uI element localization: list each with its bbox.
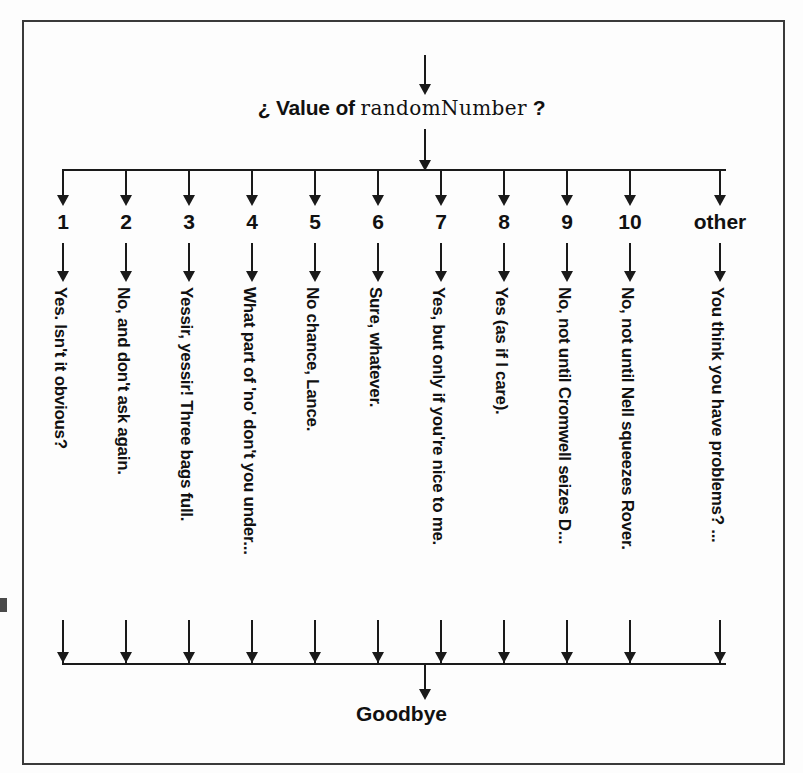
branch-answer-arrow-head (561, 271, 573, 282)
branch-merge-arrow-head (309, 652, 321, 663)
branch-drop-arrow-head (714, 195, 726, 206)
branch-answer-5: No chance, Lance. (302, 287, 322, 431)
entry-arrow-head (419, 84, 431, 95)
branch-key-5: 5 (309, 210, 321, 234)
branch-answer-9: No, not until Cromwell seizes D... (554, 287, 574, 544)
branch-merge-arrow-head (183, 652, 195, 663)
exit-arrow-head (419, 689, 431, 700)
branch-answer-10: No, not until Nell squeezes Rover. (617, 287, 637, 550)
branch-key-6: 6 (372, 210, 384, 234)
branch-answer-7: Yes, but only if you're nice to me. (428, 287, 448, 545)
branch-drop-arrow-head (624, 195, 636, 206)
distribution-bar (62, 169, 726, 171)
branch-merge-arrow-head (372, 652, 384, 663)
branch-merge-arrow-head (57, 652, 69, 663)
branch-drop-arrow-head (183, 195, 195, 206)
flowchart-page: ¿ Value of randomNumber ? Goodbye 1Yes. … (0, 0, 803, 773)
branch-answer-arrow-head (714, 271, 726, 282)
branch-drop-arrow-head (498, 195, 510, 206)
branch-drop-arrow-head (309, 195, 321, 206)
branch-answer-other: You think you have problems? ... (707, 287, 727, 543)
decision-title-prefix: ¿ Value of (258, 96, 355, 119)
merge-bar (62, 663, 726, 665)
branch-key-1: 1 (57, 210, 69, 234)
branch-key-10: 10 (618, 210, 641, 234)
branch-key-other: other (694, 210, 747, 234)
branch-answer-1: Yes. Isn't it obvious? (50, 287, 70, 449)
branch-key-9: 9 (561, 210, 573, 234)
branch-drop-arrow-head (372, 195, 384, 206)
branch-key-4: 4 (246, 210, 258, 234)
end-label: Goodbye (0, 702, 803, 726)
branch-answer-arrow-head (57, 271, 69, 282)
branch-answer-arrow-head (120, 271, 132, 282)
entry-arrow-line (424, 55, 426, 87)
branch-answer-arrow-head (372, 271, 384, 282)
decision-title-variable: randomNumber (361, 96, 528, 120)
branch-drop-arrow-head (435, 195, 447, 206)
branch-answer-arrow-head (246, 271, 258, 282)
branch-key-7: 7 (435, 210, 447, 234)
branch-merge-arrow-head (561, 652, 573, 663)
branch-merge-arrow-head (246, 652, 258, 663)
branch-merge-arrow-head (714, 652, 726, 663)
page-frame (22, 20, 785, 765)
branch-merge-arrow-head (120, 652, 132, 663)
branch-answer-2: No, and don't ask again. (113, 287, 133, 475)
branch-answer-arrow-head (498, 271, 510, 282)
decision-title-suffix: ? (533, 96, 546, 119)
branch-drop-arrow-head (246, 195, 258, 206)
branch-answer-arrow-head (435, 271, 447, 282)
branch-drop-arrow-head (120, 195, 132, 206)
branch-answer-6: Sure, whatever. (365, 287, 385, 407)
branch-answer-arrow-head (183, 271, 195, 282)
branch-answer-8: Yes (as if I care). (491, 287, 511, 415)
branch-key-8: 8 (498, 210, 510, 234)
decision-title: ¿ Value of randomNumber ? (0, 96, 803, 120)
branch-drop-arrow-head (57, 195, 69, 206)
branch-answer-4: What part of 'no' don't you under... (239, 287, 259, 555)
branch-merge-arrow-head (498, 652, 510, 663)
branch-key-3: 3 (183, 210, 195, 234)
branch-merge-arrow-head (624, 652, 636, 663)
branch-drop-arrow-head (561, 195, 573, 206)
branch-answer-3: Yessir, yessir! Three bags full. (176, 287, 196, 521)
branch-merge-arrow-head (435, 652, 447, 663)
branch-answer-arrow-head (624, 271, 636, 282)
branch-answer-arrow-head (309, 271, 321, 282)
page-edge-mark (0, 598, 7, 612)
branch-key-2: 2 (120, 210, 132, 234)
